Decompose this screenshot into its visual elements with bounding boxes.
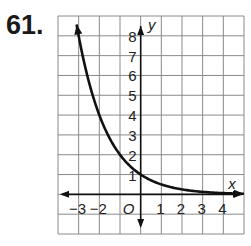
x-axis-arrow-left xyxy=(60,191,69,198)
x-axis-label: x xyxy=(227,175,236,192)
y-axis-label: y xyxy=(147,16,157,33)
y-tick-label: 2 xyxy=(128,147,136,164)
x-tick-label: −2 xyxy=(90,200,107,217)
x-tick-label: 1 xyxy=(156,200,164,217)
curve-arrow-end xyxy=(234,190,244,198)
y-tick-label: 3 xyxy=(128,127,136,144)
curve-series xyxy=(77,24,244,193)
y-axis-arrow-down xyxy=(137,219,144,228)
x-tick-label: 2 xyxy=(177,200,185,217)
y-tick-label: 5 xyxy=(128,87,136,104)
y-tick-label: 8 xyxy=(128,28,136,45)
y-tick-label: 6 xyxy=(128,67,136,84)
origin-label: O xyxy=(123,200,135,217)
x-tick-label: −3 xyxy=(69,200,86,217)
exponential-graph: −3−2123412345678Oxy xyxy=(0,0,251,246)
x-tick-label: 4 xyxy=(218,200,226,217)
y-axis-arrow-up xyxy=(137,26,144,35)
y-tick-label: 7 xyxy=(128,48,136,65)
x-tick-label: 3 xyxy=(197,200,205,217)
y-tick-label: 4 xyxy=(128,107,136,124)
